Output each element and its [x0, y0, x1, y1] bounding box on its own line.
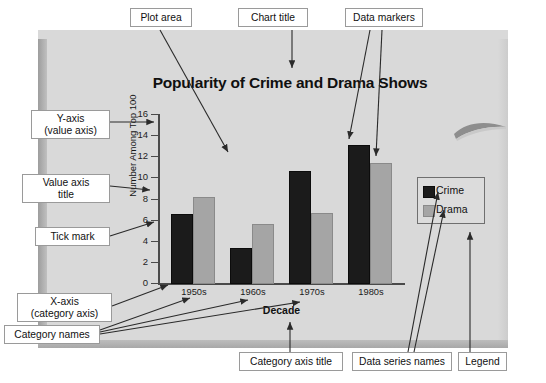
bar-group-1960s	[226, 115, 280, 284]
callout-y-axis-line2: (value axis)	[37, 125, 104, 137]
callout-x-axis-line2: (category axis)	[23, 308, 106, 320]
tick-mark	[151, 283, 158, 284]
callout-legend: Legend	[458, 352, 507, 371]
page-right-edge	[498, 39, 508, 340]
callout-category-names: Category names	[4, 325, 100, 344]
bar-crime-1950s[interactable]	[171, 214, 193, 284]
bar-drama-1950s[interactable]	[193, 197, 215, 284]
callout-data-markers: Data markers	[345, 8, 423, 27]
legend-swatch-drama-icon	[423, 205, 435, 217]
callout-y-axis-line1: Y-axis	[37, 113, 104, 125]
bar-group-1950s	[167, 115, 221, 284]
bar-drama-1960s[interactable]	[252, 224, 274, 284]
category-label-1970s: 1970s	[285, 287, 339, 297]
callout-data-series-names: Data series names	[352, 352, 452, 371]
tick-mark	[151, 114, 158, 115]
tick-mark	[151, 241, 158, 242]
category-label-1950s: 1950s	[167, 287, 221, 297]
callout-y-axis: Y-axis (value axis)	[31, 110, 110, 139]
page-curl	[452, 118, 508, 146]
callout-plot-area: Plot area	[130, 8, 192, 27]
category-label-1960s: 1960s	[226, 287, 280, 297]
tick-mark	[151, 220, 158, 221]
tick-mark	[151, 199, 158, 200]
callout-x-axis: X-axis (category axis)	[17, 293, 112, 322]
callout-value-axis-title-line1: Value axis	[28, 177, 104, 189]
tick-mark	[151, 135, 158, 136]
chart: Popularity of Crime and Drama Shows 16 1…	[120, 52, 450, 320]
callout-x-axis-line1: X-axis	[23, 296, 106, 308]
legend-label-crime: Crime	[436, 184, 464, 196]
bar-drama-1970s[interactable]	[311, 213, 333, 284]
value-axis-title: Number Among Top 100	[127, 71, 138, 221]
callout-chart-title: Chart title	[238, 8, 308, 27]
category-label-1980s: 1980s	[344, 287, 398, 297]
bar-crime-1980s[interactable]	[348, 145, 370, 284]
bar-crime-1970s[interactable]	[289, 171, 311, 284]
callout-value-axis-title-line2: title	[28, 189, 104, 201]
category-axis-title: Decade	[158, 304, 405, 316]
legend[interactable]: Crime Drama	[417, 177, 485, 224]
callout-category-axis-title: Category axis title	[239, 352, 343, 371]
figure-root: Popularity of Crime and Drama Shows 16 1…	[0, 0, 546, 383]
callout-value-axis-title: Value axis title	[22, 174, 110, 203]
chart-title: Popularity of Crime and Drama Shows	[130, 74, 450, 92]
callout-tick-mark: Tick mark	[35, 227, 110, 246]
bar-group-1970s	[285, 115, 339, 284]
legend-label-drama: Drama	[436, 203, 468, 215]
page-bottom-edge	[38, 340, 508, 348]
y-tick-label: 0	[128, 277, 148, 288]
bar-crime-1960s[interactable]	[230, 248, 252, 284]
y-tick-label: 4	[128, 235, 148, 246]
legend-swatch-crime-icon	[423, 186, 435, 198]
y-tick-label: 2	[128, 256, 148, 267]
bar-group-1980s	[344, 115, 398, 284]
tick-mark	[151, 156, 158, 157]
tick-mark	[151, 177, 158, 178]
tick-mark	[151, 262, 158, 263]
bar-drama-1980s[interactable]	[370, 163, 392, 284]
data-markers	[159, 114, 405, 284]
